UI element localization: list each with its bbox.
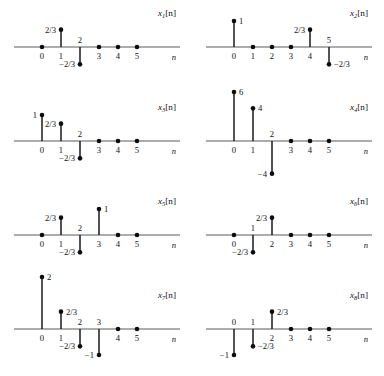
- tick-label: 1: [251, 317, 255, 327]
- tick-label: 5: [135, 239, 139, 249]
- stem-dot: [327, 233, 332, 238]
- stem-dot: [97, 207, 102, 212]
- tick-label: 4: [116, 145, 121, 155]
- stem-dot: [251, 106, 256, 111]
- tick-label: 0: [40, 51, 44, 61]
- tick-label: 1: [251, 51, 255, 61]
- tick-label: 0: [40, 333, 44, 343]
- stem-dot: [97, 353, 102, 358]
- stem-dot: [59, 27, 64, 32]
- stem-plot-figure: nx1[n]012/32−2/3345nx2[n]0112342/35−2/3n…: [0, 0, 384, 376]
- stem-dot: [232, 233, 237, 238]
- axis-variable-label: n: [364, 52, 368, 62]
- stem-dot: [270, 45, 275, 50]
- stem-dot: [251, 344, 256, 349]
- tick-label: 4: [308, 51, 313, 61]
- tick-label: 5: [327, 333, 331, 343]
- stem-plot-x8: nx8[n]0−11−2/322/3345: [192, 282, 384, 376]
- value-label: 2/3: [66, 307, 77, 317]
- stem-dot: [251, 45, 256, 50]
- axis-variable-label: n: [364, 146, 368, 156]
- value-label: 2/3: [45, 213, 56, 223]
- value-label: 2/3: [294, 25, 305, 35]
- stem-dot: [59, 309, 64, 314]
- stem-plot-x5: nx5[n]012/32−2/33145: [0, 188, 192, 282]
- tick-label: 3: [289, 51, 293, 61]
- value-label: −1: [85, 350, 94, 360]
- value-label: −4: [258, 169, 268, 179]
- stem-dot: [135, 327, 140, 332]
- stem-dot: [116, 139, 121, 144]
- value-label: 6: [239, 87, 244, 97]
- tick-label: 0: [232, 51, 236, 61]
- signal-name-label: x8[n]: [349, 290, 368, 301]
- stem-dot: [270, 309, 275, 314]
- stem-dot: [59, 215, 64, 220]
- tick-label: 3: [97, 145, 101, 155]
- tick-label: 3: [289, 333, 293, 343]
- value-label: −2/3: [59, 153, 75, 163]
- stem-dot: [232, 90, 237, 95]
- axis-variable-label: n: [364, 334, 368, 344]
- stem-plot-x4: nx4[n]06142−4345: [192, 94, 384, 188]
- tick-label: 2: [78, 35, 82, 45]
- stem-dot: [289, 45, 294, 50]
- signal-name-label: x4[n]: [349, 102, 368, 113]
- tick-label: 4: [308, 145, 313, 155]
- stem-dot: [40, 113, 45, 118]
- stem-dot: [78, 344, 83, 349]
- tick-label: 1: [251, 223, 255, 233]
- signal-name-label: x5[n]: [157, 196, 176, 207]
- value-label: 1: [104, 204, 108, 214]
- value-label: −1: [220, 350, 229, 360]
- axis-variable-label: n: [364, 240, 368, 250]
- axis-variable-label: n: [172, 240, 176, 250]
- tick-label: 0: [40, 239, 44, 249]
- stem-dot: [308, 27, 313, 32]
- tick-label: 0: [232, 145, 236, 155]
- tick-label: 2: [78, 129, 82, 139]
- tick-label: 2: [78, 317, 82, 327]
- tick-label: 5: [327, 35, 331, 45]
- stem-dot: [251, 250, 256, 255]
- tick-label: 3: [97, 239, 101, 249]
- stem-dot: [116, 233, 121, 238]
- tick-label: 5: [327, 239, 331, 249]
- stem-dot: [232, 353, 237, 358]
- tick-label: 4: [116, 333, 121, 343]
- stem-dot: [78, 62, 83, 67]
- tick-label: 5: [135, 333, 139, 343]
- axis-variable-label: n: [172, 52, 176, 62]
- value-label: 2/3: [45, 119, 56, 129]
- value-label: 4: [258, 103, 263, 113]
- stem-plot-x6: nx6[n]01−2/322/3345: [192, 188, 384, 282]
- signal-name-label: x3[n]: [157, 102, 176, 113]
- stem-dot: [308, 327, 313, 332]
- tick-label: 4: [308, 239, 313, 249]
- tick-label: 4: [116, 239, 121, 249]
- tick-label: 0: [40, 145, 44, 155]
- stem-dot: [289, 139, 294, 144]
- tick-label: 2: [270, 333, 274, 343]
- stem-dot: [78, 250, 83, 255]
- value-label: 2: [47, 272, 51, 282]
- value-label: 1: [239, 16, 243, 26]
- value-label: 2/3: [256, 213, 267, 223]
- stem-dot: [59, 121, 64, 126]
- tick-label: 1: [251, 145, 255, 155]
- axis-variable-label: n: [172, 334, 176, 344]
- stem-dot: [116, 45, 121, 50]
- stem-dot: [327, 62, 332, 67]
- stem-plot-x2: nx2[n]0112342/35−2/3: [192, 0, 384, 94]
- value-label: 1: [33, 110, 37, 120]
- stem-plot-x1: nx1[n]012/32−2/3345: [0, 0, 192, 94]
- tick-label: 0: [232, 317, 236, 327]
- signal-name-label: x7[n]: [157, 290, 176, 301]
- tick-label: 2: [270, 129, 274, 139]
- stem-dot: [289, 327, 294, 332]
- stem-plot-x3: nx3[n]0112/32−2/3345: [0, 94, 192, 188]
- stem-dot: [78, 156, 83, 161]
- tick-label: 5: [135, 145, 139, 155]
- tick-label: 2: [78, 223, 82, 233]
- stem-dot: [40, 45, 45, 50]
